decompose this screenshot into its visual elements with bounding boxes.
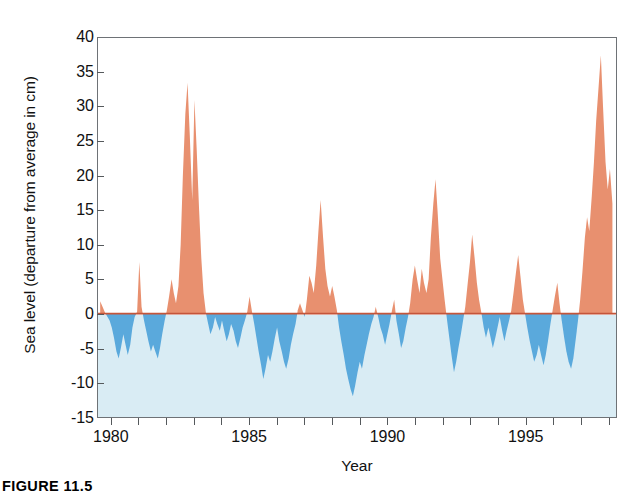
y-tick-label: 30 xyxy=(44,98,94,114)
figure-caption: FIGURE 11.5 xyxy=(2,478,93,494)
y-tick-label: 35 xyxy=(44,64,94,80)
positive-anomaly-area xyxy=(579,55,613,313)
positive-anomaly-area xyxy=(136,262,143,314)
y-tick-label: -5 xyxy=(44,341,94,357)
y-tick-mark xyxy=(97,383,104,384)
positive-anomaly-area xyxy=(247,296,253,313)
sea-level-area-series xyxy=(98,38,616,417)
positive-anomaly-area xyxy=(391,300,395,314)
x-tick-mark xyxy=(387,418,388,425)
y-axis-title: Sea level (departure from average in cm) xyxy=(21,5,39,425)
x-tick-mark xyxy=(277,418,278,425)
negative-anomaly-area xyxy=(525,314,552,366)
figure-root: Sea level (departure from average in cm)… xyxy=(0,0,637,504)
positive-anomaly-area xyxy=(374,307,377,314)
negative-anomaly-area xyxy=(561,314,579,369)
y-tick-mark xyxy=(97,279,104,280)
y-tick-label: 40 xyxy=(44,29,94,45)
y-tick-mark xyxy=(97,245,104,246)
plot-area xyxy=(97,37,617,418)
positive-anomaly-area xyxy=(464,234,481,313)
positive-anomaly-area xyxy=(511,255,526,314)
x-tick-mark xyxy=(360,418,361,425)
x-tick-mark xyxy=(111,418,112,425)
y-tick-label: 0 xyxy=(44,306,94,322)
y-tick-mark xyxy=(97,210,104,211)
negative-anomaly-area xyxy=(396,314,409,348)
negative-anomaly-area xyxy=(106,314,137,359)
positive-anomaly-area xyxy=(166,83,206,314)
positive-anomaly-area xyxy=(100,301,105,313)
x-tick-mark xyxy=(166,418,167,425)
y-tick-mark xyxy=(97,349,104,350)
y-tick-mark xyxy=(97,72,104,73)
x-axis-title: Year xyxy=(97,457,617,475)
x-tick-mark xyxy=(332,418,333,425)
x-tick-label: 1980 xyxy=(71,428,151,446)
y-tick-label: 5 xyxy=(44,271,94,287)
y-tick-label: 15 xyxy=(44,202,94,218)
negative-anomaly-area xyxy=(377,314,391,345)
negative-anomaly-area xyxy=(482,314,511,348)
negative-anomaly-area xyxy=(143,314,166,359)
x-tick-label: 1990 xyxy=(347,428,427,446)
y-tick-mark xyxy=(97,141,104,142)
y-tick-label: -10 xyxy=(44,375,94,391)
x-tick-mark xyxy=(553,418,554,425)
x-tick-mark xyxy=(138,418,139,425)
y-tick-mark xyxy=(97,314,104,315)
x-tick-label: 1995 xyxy=(486,428,566,446)
y-tick-label: 25 xyxy=(44,133,94,149)
x-tick-label: 1985 xyxy=(209,428,289,446)
negative-anomaly-area xyxy=(446,314,464,373)
x-tick-mark xyxy=(470,418,471,425)
x-tick-mark xyxy=(249,418,250,425)
x-tick-mark xyxy=(443,418,444,425)
y-tick-mark xyxy=(97,106,104,107)
x-tick-mark xyxy=(194,418,195,425)
x-tick-mark xyxy=(581,418,582,425)
x-tick-mark xyxy=(526,418,527,425)
y-tick-mark xyxy=(97,176,104,177)
positive-anomaly-area xyxy=(552,283,561,314)
x-tick-mark xyxy=(221,418,222,425)
negative-anomaly-area xyxy=(337,314,374,397)
y-tick-label: 10 xyxy=(44,237,94,253)
positive-anomaly-area xyxy=(305,200,337,314)
x-tick-mark xyxy=(304,418,305,425)
negative-anomaly-area xyxy=(252,314,297,379)
x-tick-mark xyxy=(498,418,499,425)
y-tick-label: 20 xyxy=(44,168,94,184)
x-tick-mark xyxy=(415,418,416,425)
positive-anomaly-area xyxy=(409,179,447,313)
y-tick-label: -15 xyxy=(44,410,94,426)
x-tick-mark xyxy=(609,418,610,425)
positive-anomaly-area xyxy=(297,303,303,313)
negative-anomaly-area xyxy=(206,314,247,348)
